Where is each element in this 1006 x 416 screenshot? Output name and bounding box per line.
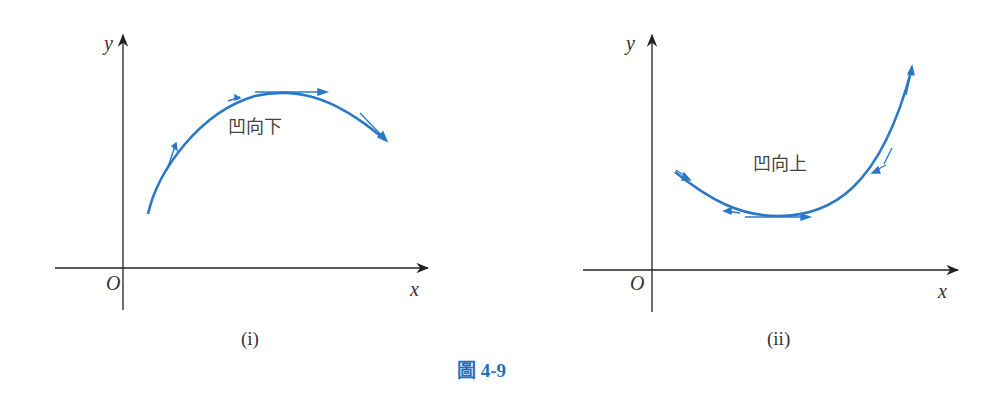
concave-up-label: 凹向上 bbox=[753, 153, 807, 174]
concave-up-curve bbox=[675, 68, 912, 216]
y-axis-label: y bbox=[102, 32, 113, 55]
concave-down-curve bbox=[148, 93, 385, 214]
subfigure-label-i: (i) bbox=[241, 328, 259, 350]
x-axis-label: x bbox=[937, 280, 947, 302]
x-axis-label: x bbox=[409, 278, 419, 300]
figure-canvas: y O x 凹向下 (i) y O x 凹向上 (ii) 圖 bbox=[0, 0, 1006, 416]
origin-label: O bbox=[106, 272, 120, 294]
y-axis-label: y bbox=[624, 32, 635, 55]
figure-caption: 圖 4-9 bbox=[457, 360, 506, 381]
subfigure-label-ii: (ii) bbox=[767, 328, 790, 350]
panel-i: y O x 凹向下 (i) bbox=[55, 32, 428, 350]
panel-ii: y O x 凹向上 (ii) bbox=[583, 32, 958, 350]
concave-down-label: 凹向下 bbox=[228, 116, 282, 137]
origin-label: O bbox=[630, 272, 644, 294]
